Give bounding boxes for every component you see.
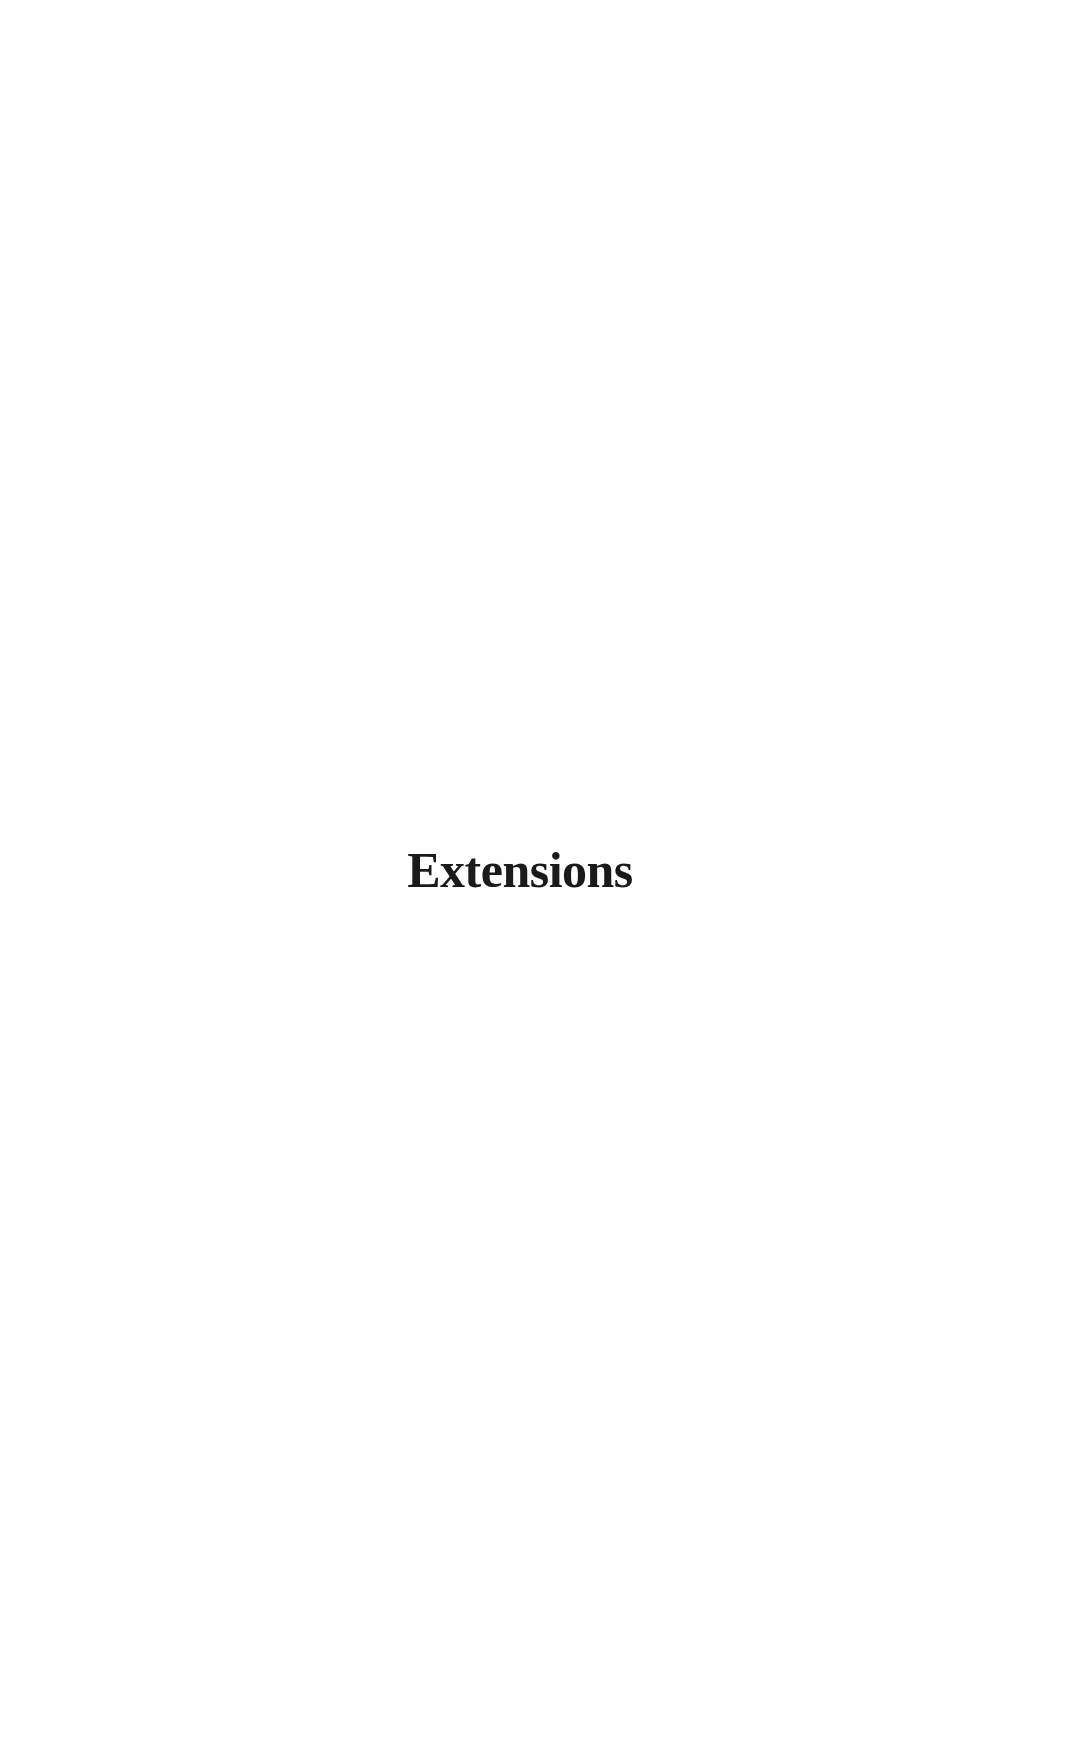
- section-title: Extensions: [0, 840, 1040, 900]
- book-page: Extensions: [0, 0, 1069, 1757]
